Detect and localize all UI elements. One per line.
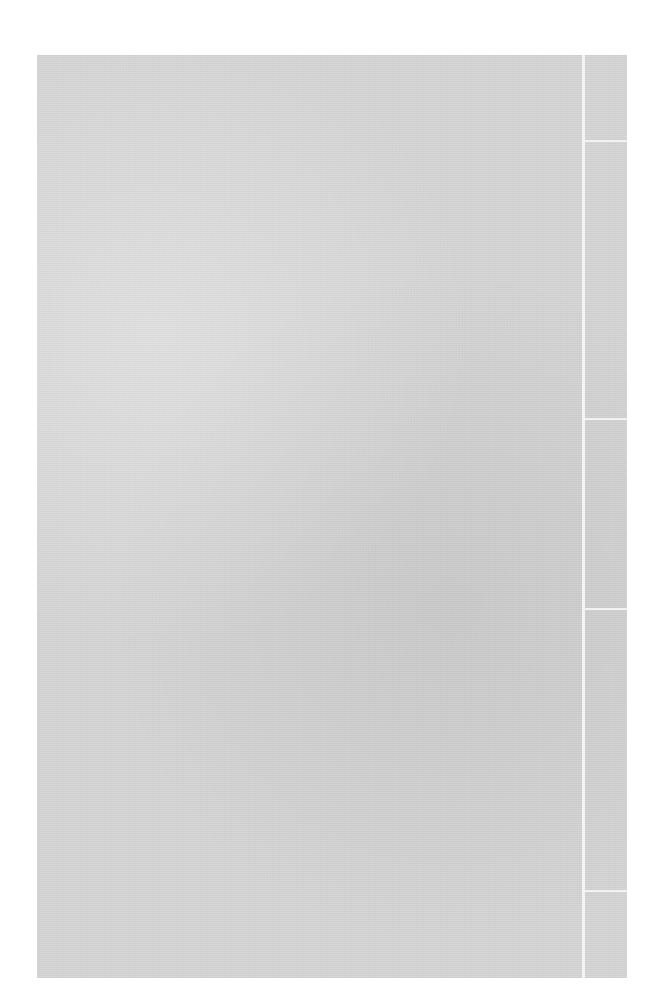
column-divider: [585, 890, 627, 892]
column-divider: [585, 608, 627, 610]
vertical-fold-line: [582, 55, 585, 978]
column-divider: [585, 418, 627, 420]
paper-sheet: [37, 55, 627, 978]
column-divider: [585, 140, 627, 142]
